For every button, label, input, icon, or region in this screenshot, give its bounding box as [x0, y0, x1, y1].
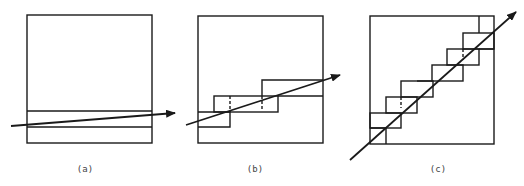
- panel-c: [350, 12, 516, 160]
- panel-label-c: (c): [418, 164, 458, 174]
- cell-b-3: [262, 80, 323, 96]
- ray-arrow-c: [350, 12, 516, 160]
- panel-label-a: (a): [65, 164, 105, 174]
- cell-c-4: [401, 81, 433, 97]
- diagram-canvas: [0, 0, 524, 186]
- panel-label-b: (b): [235, 164, 275, 174]
- cell-c-2: [370, 113, 401, 128]
- ray-arrow-b: [186, 75, 340, 125]
- panel-b: [186, 16, 340, 143]
- panel-a: [11, 15, 175, 143]
- ray-arrow-a: [11, 113, 175, 126]
